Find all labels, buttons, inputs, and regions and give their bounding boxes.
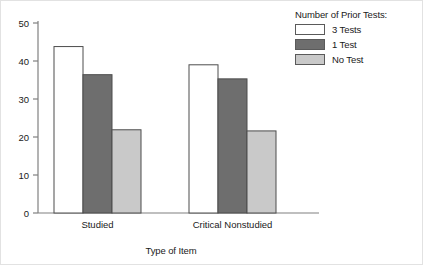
bar-group [54, 47, 276, 213]
bar [112, 130, 141, 213]
x-axis-title: Type of Item [1, 245, 341, 256]
y-axis-ticks: 01020304050 [18, 18, 38, 219]
legend-label-3-tests: 3 Tests [332, 24, 361, 35]
x-category-label: Critical Nonstudied [193, 219, 273, 230]
legend: Number of Prior Tests: 3 Tests 1 Test No… [295, 9, 421, 69]
bar [54, 47, 83, 213]
x-category-label: Studied [81, 219, 113, 230]
bar [83, 75, 112, 213]
legend-label-no-test: No Test [332, 54, 363, 65]
y-tick-label: 40 [18, 56, 29, 67]
legend-swatch-no-test [295, 54, 325, 65]
y-tick-label: 20 [18, 132, 29, 143]
x-axis-category-labels: StudiedCritical Nonstudied [81, 219, 272, 230]
legend-item-1-test[interactable]: 1 Test [295, 39, 421, 50]
legend-item-3-tests[interactable]: 3 Tests [295, 24, 421, 35]
y-tick-label: 0 [24, 208, 29, 219]
legend-title: Number of Prior Tests: [295, 9, 421, 20]
y-tick-label: 50 [18, 18, 29, 29]
bar [218, 79, 247, 213]
y-tick-label: 30 [18, 94, 29, 105]
legend-swatch-3-tests [295, 24, 325, 35]
bar-chart-figure: 01020304050 StudiedCritical Nonstudied N… [0, 0, 423, 265]
bar [189, 65, 218, 213]
bar [247, 131, 276, 213]
legend-label-1-test: 1 Test [332, 39, 357, 50]
legend-swatch-1-test [295, 39, 325, 50]
legend-item-no-test[interactable]: No Test [295, 54, 421, 65]
y-tick-label: 10 [18, 170, 29, 181]
